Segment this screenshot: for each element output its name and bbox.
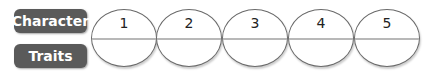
trait-ovals-row: 1 2 3 4 5: [0, 0, 435, 75]
oval-divider: [355, 38, 419, 40]
oval-number: 5: [355, 15, 419, 31]
oval-number: 4: [289, 15, 353, 31]
trait-oval-1: 1: [91, 9, 157, 67]
oval-divider: [289, 38, 353, 40]
oval-number: 2: [157, 15, 221, 31]
oval-divider: [157, 38, 221, 40]
oval-number: 3: [223, 15, 287, 31]
trait-oval-4: 4: [288, 9, 354, 67]
oval-divider: [223, 38, 287, 40]
trait-oval-2: 2: [156, 9, 222, 67]
oval-divider: [92, 38, 156, 40]
trait-oval-5: 5: [354, 9, 420, 67]
oval-number: 1: [92, 15, 156, 31]
trait-oval-3: 3: [222, 9, 288, 67]
